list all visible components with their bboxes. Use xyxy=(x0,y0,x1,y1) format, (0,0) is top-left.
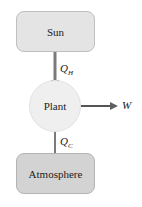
sun-node: Sun xyxy=(16,11,95,52)
heat-out-label: QC xyxy=(60,135,73,150)
atmosphere-node: Atmosphere xyxy=(16,153,95,194)
work-label: W xyxy=(122,99,131,111)
heat-out-symbol: Q xyxy=(60,135,68,147)
heat-out-subscript: C xyxy=(68,142,73,150)
atmosphere-label: Atmosphere xyxy=(29,168,83,180)
plant-node: Plant xyxy=(29,80,81,132)
plant-label: Plant xyxy=(44,100,67,112)
heat-in-label: QH xyxy=(60,62,73,77)
sun-label: Sun xyxy=(47,26,64,38)
heat-in-symbol: Q xyxy=(60,62,68,74)
heat-in-subscript: H xyxy=(68,69,73,77)
